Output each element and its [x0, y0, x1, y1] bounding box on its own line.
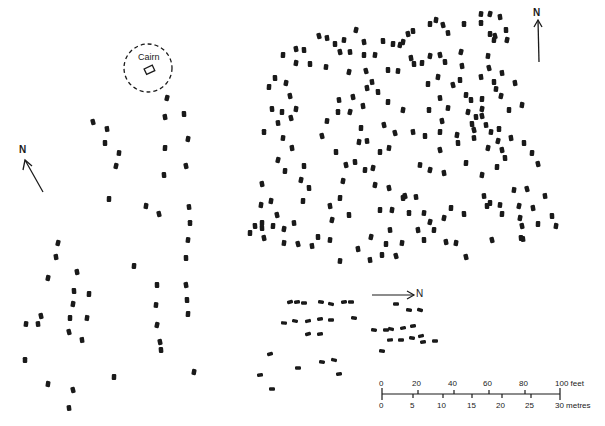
stone-marker — [252, 223, 257, 229]
stone-marker — [185, 136, 191, 143]
stone-marker — [68, 315, 73, 321]
north-label-right: N — [533, 7, 540, 18]
scale-feet-100: 100 feet — [555, 379, 584, 388]
stone-marker — [488, 31, 493, 37]
north-arrow-right — [534, 20, 542, 62]
stone-marker — [337, 49, 343, 56]
stone-marker — [516, 203, 522, 210]
stone-marker — [158, 347, 163, 353]
stone-marker — [271, 223, 276, 229]
stone-marker — [438, 129, 443, 135]
stone-marker — [163, 145, 168, 151]
stone-marker — [454, 132, 459, 139]
stone-marker — [432, 339, 438, 343]
stone-marker — [185, 297, 190, 303]
site-plan — [0, 0, 605, 426]
stone-marker — [337, 258, 342, 264]
stone-marker — [498, 93, 504, 100]
scale-feet-0: 0 — [379, 379, 383, 388]
stone-marker — [418, 334, 425, 339]
stone-marker — [433, 17, 438, 24]
stone-marker — [485, 203, 490, 209]
stone-marker — [458, 77, 463, 83]
stone-marker — [427, 107, 432, 113]
stone-marker — [331, 358, 338, 363]
stone-marker — [410, 129, 415, 136]
stone-marker — [363, 68, 369, 75]
stone-marker — [412, 61, 417, 67]
stone-marker — [465, 109, 471, 116]
stone-marker — [437, 147, 443, 154]
stone-marker — [500, 211, 505, 217]
stone-marker — [487, 11, 493, 18]
stone-marker — [397, 42, 403, 49]
stone-marker — [422, 237, 427, 243]
stone-marker — [362, 167, 367, 173]
stone-marker — [275, 120, 280, 127]
stone-marker — [480, 96, 485, 102]
stone-marker — [441, 215, 447, 222]
north-label-bottom: N — [416, 288, 423, 299]
stone-marker — [66, 329, 72, 336]
stone-marker — [389, 207, 394, 214]
scale-metres-10: 10 — [437, 401, 446, 410]
stone-marker — [328, 318, 334, 322]
scale-feet-80: 80 — [519, 379, 528, 388]
stone-marker — [287, 93, 293, 100]
stone-marker — [486, 65, 492, 72]
stone-marker — [417, 162, 422, 168]
stone-marker — [504, 27, 509, 33]
stone-marker — [267, 84, 272, 90]
scale-metres-20: 20 — [496, 401, 505, 410]
stone-marker — [503, 155, 508, 161]
stone-marker — [437, 52, 443, 59]
stone-marker — [155, 282, 160, 288]
stone-marker — [512, 80, 517, 87]
stone-marker — [463, 254, 469, 261]
stone-marker — [364, 138, 369, 144]
stone-marker — [378, 207, 383, 213]
stone-marker — [338, 195, 343, 201]
stone-marker — [497, 202, 502, 208]
stone-marker — [364, 85, 369, 92]
stone-marker — [376, 89, 381, 95]
stone-marker — [428, 21, 433, 27]
stone-marker — [302, 47, 307, 53]
stone-marker — [439, 118, 445, 125]
stone-marker — [301, 198, 306, 204]
stone-marker — [336, 372, 343, 376]
stone-marker — [395, 68, 400, 74]
stone-marker — [409, 336, 416, 340]
scale-metres-15: 15 — [467, 401, 476, 410]
stone-marker — [445, 105, 450, 112]
scale-metres-0: 0 — [379, 401, 383, 410]
stone-marker — [392, 130, 398, 137]
stone-marker — [72, 288, 77, 294]
stone-marker — [336, 109, 341, 115]
stone-marker — [453, 240, 458, 247]
stone-marker — [413, 194, 418, 201]
stone-marker — [308, 61, 313, 67]
stone-marker — [443, 239, 449, 246]
stone-marker — [352, 159, 357, 165]
stone-marker — [440, 22, 446, 29]
stone-marker — [384, 241, 389, 247]
stone-marker — [350, 94, 356, 101]
stone-marker — [79, 337, 84, 344]
stone-marker — [398, 338, 404, 342]
stone-marker — [445, 30, 450, 37]
stone-marker — [469, 97, 474, 103]
stone-marker — [45, 381, 50, 388]
stone-marker — [23, 357, 28, 363]
stone-marker — [495, 138, 501, 145]
stone-marker — [426, 81, 431, 87]
stone-marker — [341, 300, 348, 304]
stone-marker — [488, 129, 493, 136]
stone-marker — [386, 185, 392, 192]
stone-marker — [301, 301, 307, 305]
stone-marker — [348, 300, 354, 304]
stone-marker — [437, 95, 442, 102]
stone-marker — [427, 53, 433, 60]
stone-marker — [353, 27, 359, 34]
stone-marker — [463, 92, 468, 98]
